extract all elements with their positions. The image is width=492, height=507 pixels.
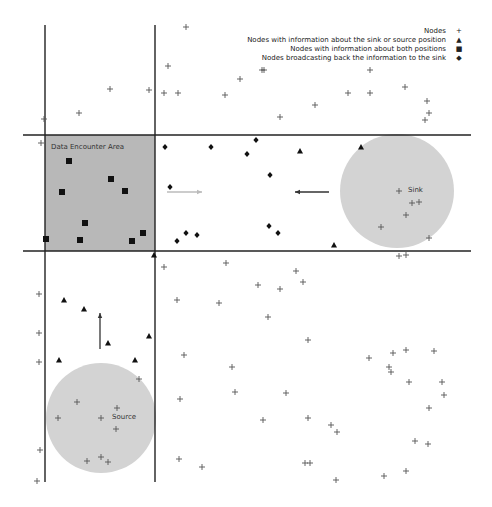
arrowhead-icon [197, 190, 202, 194]
arrowhead-icon [295, 190, 300, 194]
node-plus-icon [328, 422, 334, 428]
node-plus-icon [367, 90, 373, 96]
node-plus-icon [161, 90, 167, 96]
node-plus-icon [406, 379, 412, 385]
node-square-icon [82, 220, 88, 226]
node-plus-icon [183, 24, 189, 30]
node-plus-icon [381, 473, 387, 479]
node-plus-icon [229, 364, 235, 370]
node-diamond-icon [194, 232, 199, 238]
node-plus-icon [36, 330, 42, 336]
node-plus-icon [334, 429, 340, 435]
node-plus-icon [441, 392, 447, 398]
node-diamond-icon [253, 137, 258, 143]
node-plus-icon [277, 114, 283, 120]
node-plus-icon [34, 478, 40, 484]
legend-item-one-position: Nodes with information about the sink or… [247, 36, 466, 45]
node-plus-icon [174, 297, 180, 303]
source-label: Source [112, 413, 136, 421]
node-triangle-icon [105, 340, 111, 346]
node-plus-icon [222, 92, 228, 98]
node-plus-icon [260, 417, 266, 423]
node-square-icon [43, 236, 49, 242]
node-plus-icon [38, 140, 44, 146]
node-plus-icon [37, 447, 43, 453]
node-diamond-icon [267, 172, 272, 178]
node-plus-icon [307, 460, 313, 466]
node-plus-icon [41, 116, 47, 122]
triangle-icon: ▲ [452, 36, 466, 45]
legend: Nodes + Nodes with information about the… [247, 27, 466, 63]
node-plus-icon [396, 253, 402, 259]
node-plus-icon [36, 291, 42, 297]
node-plus-icon [175, 90, 181, 96]
legend-label: Nodes [424, 27, 446, 36]
node-plus-icon [426, 405, 432, 411]
node-square-icon [129, 238, 135, 244]
node-plus-icon [403, 347, 409, 353]
node-diamond-icon [174, 238, 179, 244]
node-plus-icon [305, 337, 311, 343]
node-plus-icon [402, 84, 408, 90]
legend-item-broadcasting: Nodes broadcasting back the information … [247, 54, 466, 63]
node-plus-icon [181, 352, 187, 358]
node-plus-icon [107, 86, 113, 92]
node-triangle-icon [331, 242, 337, 248]
node-plus-icon [255, 282, 261, 288]
node-triangle-icon [146, 333, 152, 339]
square-icon: ■ [452, 45, 466, 54]
legend-item-both-positions: Nodes with information about both positi… [247, 45, 466, 54]
node-plus-icon [439, 379, 445, 385]
node-plus-icon [283, 390, 289, 396]
node-plus-icon [412, 438, 418, 444]
node-square-icon [122, 188, 128, 194]
legend-label: Nodes with information about both positi… [290, 45, 446, 54]
node-plus-icon [403, 468, 409, 474]
node-diamond-icon [266, 223, 271, 229]
node-plus-icon [424, 98, 430, 104]
node-plus-icon [165, 63, 171, 69]
node-plus-icon [366, 355, 372, 361]
background-shapes [45, 134, 454, 473]
node-plus-icon [161, 264, 167, 270]
node-plus-icon [232, 389, 238, 395]
node-triangle-icon [61, 297, 67, 303]
node-square-icon [77, 237, 83, 243]
node-plus-icon [76, 110, 82, 116]
plus-icon: + [452, 27, 466, 36]
node-square-icon [66, 158, 72, 164]
node-plus-icon [422, 117, 428, 123]
node-plus-icon [390, 350, 396, 356]
node-square-icon [108, 176, 114, 182]
node-plus-icon [223, 260, 229, 266]
diamond-icon: ◆ [452, 54, 466, 63]
node-plus-icon [333, 477, 339, 483]
legend-label: Nodes broadcasting back the information … [262, 54, 446, 63]
node-plus-icon [265, 314, 271, 320]
node-plus-icon [237, 76, 243, 82]
node-diamond-icon [275, 230, 280, 236]
node-diamond-icon [167, 184, 172, 190]
node-diamond-icon [208, 144, 213, 150]
node-plus-icon [367, 67, 373, 73]
node-plus-icon [199, 464, 205, 470]
node-triangle-icon [151, 252, 157, 258]
node-diamond-icon [244, 151, 249, 157]
node-plus-icon [177, 396, 183, 402]
node-plus-icon [403, 252, 409, 258]
sink-label: Sink [408, 186, 423, 194]
node-square-icon [140, 230, 146, 236]
legend-item-nodes: Nodes + [247, 27, 466, 36]
node-plus-icon [300, 279, 306, 285]
node-plus-icon [305, 415, 311, 421]
node-plus-icon [176, 456, 182, 462]
node-square-icon [59, 189, 65, 195]
node-plus-icon [426, 110, 432, 116]
node-diamond-icon [183, 230, 188, 236]
node-plus-icon [277, 286, 283, 292]
arrowhead-icon [98, 313, 102, 318]
node-plus-icon [425, 441, 431, 447]
node-plus-icon [216, 300, 222, 306]
legend-label: Nodes with information about the sink or… [247, 36, 446, 45]
node-plus-icon [431, 348, 437, 354]
